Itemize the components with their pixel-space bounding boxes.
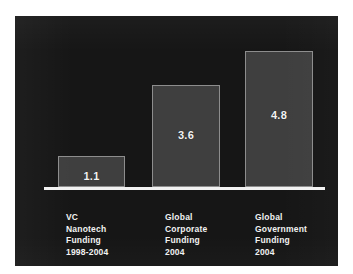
category-line: Funding (66, 235, 108, 247)
category-line: Global (165, 212, 207, 224)
category-line: 2004 (165, 247, 207, 259)
bar-chart-figure: 1.1 3.6 4.8 VC Nanotech Funding 1998-200… (0, 0, 353, 274)
category-line: Funding (165, 235, 207, 247)
bar-value-label: 3.6 (153, 129, 219, 141)
bar-vc-nanotech-funding: 1.1 (58, 156, 125, 187)
category-label-global-government: Global Government Funding 2004 (255, 212, 307, 258)
plot-area: 1.1 3.6 4.8 VC Nanotech Funding 1998-200… (15, 16, 338, 266)
category-line: Corporate (165, 224, 207, 236)
bar-value-label: 1.1 (59, 170, 124, 182)
category-label-vc-nanotech: VC Nanotech Funding 1998-2004 (66, 212, 108, 258)
category-line: Government (255, 224, 307, 236)
category-line: Nanotech (66, 224, 108, 236)
bar-global-government-funding: 4.8 (245, 51, 313, 187)
bar-global-corporate-funding: 3.6 (152, 85, 220, 187)
category-line: 1998-2004 (66, 247, 108, 259)
category-line: Global (255, 212, 307, 224)
bar-value-label: 4.8 (246, 109, 312, 121)
chart-panel: 1.1 3.6 4.8 VC Nanotech Funding 1998-200… (15, 16, 338, 266)
category-line: 2004 (255, 247, 307, 259)
category-label-global-corporate: Global Corporate Funding 2004 (165, 212, 207, 258)
category-line: Funding (255, 235, 307, 247)
x-axis-baseline (44, 187, 325, 190)
category-line: VC (66, 212, 108, 224)
